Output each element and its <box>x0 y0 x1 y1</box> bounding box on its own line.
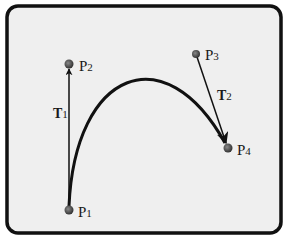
diagram-frame <box>7 6 281 233</box>
point-p3-dot <box>192 50 200 58</box>
point-p4-label: P4 <box>237 142 251 158</box>
tangent-t1-label: T1 <box>53 106 68 121</box>
tangent-t2-label: T2 <box>217 88 232 103</box>
point-p3-label: P3 <box>205 47 219 63</box>
point-p1-label: P1 <box>78 204 92 220</box>
point-p2-label: P2 <box>79 58 93 74</box>
point-p2-dot <box>65 60 74 69</box>
point-p1-dot <box>65 206 74 215</box>
hermite-curve-diagram: P1 P2 P3 P4 T1 T2 <box>0 0 288 241</box>
point-p4-dot <box>224 144 233 153</box>
